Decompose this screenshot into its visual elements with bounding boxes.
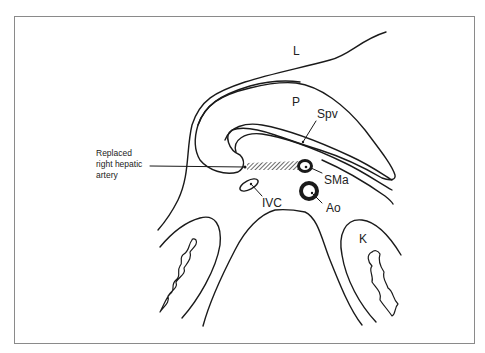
aorta-vessel — [301, 183, 317, 199]
label-line-1: Replaced — [96, 148, 142, 159]
vertebra-outline — [203, 210, 362, 326]
left-kidney-pelvis — [160, 239, 197, 312]
label-pancreas: P — [292, 96, 300, 108]
artery-pointer — [150, 166, 245, 167]
label-splenic-vein: Spv — [317, 108, 338, 120]
label-kidney: K — [359, 233, 367, 245]
label-aorta: Ao — [326, 202, 341, 214]
label-line-2: right hepatic — [96, 159, 142, 170]
label-ivc: IVC — [262, 197, 282, 209]
anatomy-drawing — [0, 0, 485, 353]
label-replaced-right-hepatic-artery: Replaced right hepatic artery — [96, 148, 142, 181]
right-kidney-pelvis — [368, 251, 398, 316]
sma-vessel — [299, 161, 312, 172]
replaced-right-hepatic-artery — [247, 161, 300, 170]
sma-pointer — [311, 168, 322, 173]
ivc-vessel — [238, 176, 260, 193]
label-sma: SMa — [324, 174, 349, 186]
label-line-3: artery — [96, 170, 142, 181]
label-liver: L — [293, 45, 300, 57]
